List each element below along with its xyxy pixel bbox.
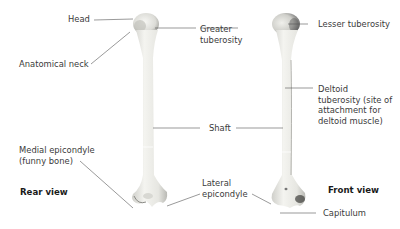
front-view-humerus xyxy=(272,13,306,208)
label-medial-epicondyle: Medial epicondyle (funny bone) xyxy=(19,145,95,166)
rear-view-title: Rear view xyxy=(20,187,68,197)
humerus-diagram: Head Anatomical neck Greater tuberosity … xyxy=(0,0,400,229)
label-deltoid-tuberosity: Deltoid tuberosity (site of attachment f… xyxy=(318,84,392,126)
label-shaft: Shaft xyxy=(209,123,231,134)
label-greater-tuberosity: Greater tuberosity xyxy=(200,24,242,45)
label-capitulum: Capitulum xyxy=(323,208,366,219)
rear-view-humerus xyxy=(132,13,167,207)
label-anatomical-neck: Anatomical neck xyxy=(19,59,89,70)
label-lateral-epicondyle: Lateral epicondyle xyxy=(202,178,248,199)
front-view-title: Front view xyxy=(328,185,379,195)
label-head: Head xyxy=(68,14,90,25)
label-lesser-tuberosity: Lesser tuberosity xyxy=(318,19,390,30)
